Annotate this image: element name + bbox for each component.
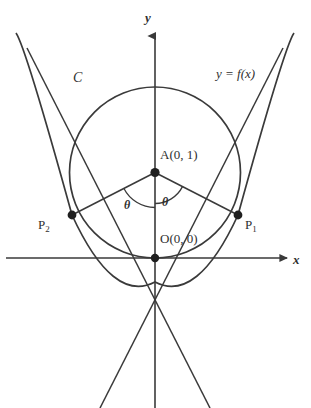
figure-canvas — [0, 0, 311, 408]
segment-a-p2 — [72, 173, 155, 216]
point-p2-label: P2 — [38, 218, 50, 234]
point-a-label: A(0, 1) — [160, 148, 198, 161]
y-axis-label: y — [145, 11, 151, 24]
circle-label-c: C — [73, 71, 82, 85]
angle-arc-right — [155, 186, 183, 203]
point-a-dot — [150, 168, 159, 177]
point-p1-label: P1 — [245, 218, 257, 234]
point-o-label: O(0, 0) — [160, 232, 198, 245]
point-p1-label-sub: 1 — [252, 224, 257, 234]
point-p2-label-sub: 2 — [45, 224, 50, 234]
x-axis-label: x — [293, 253, 300, 266]
point-p2-dot — [68, 211, 77, 220]
function-label: y = f(x) — [216, 67, 255, 80]
point-p1-dot — [234, 211, 243, 220]
angle-label-theta-left: θ — [124, 199, 130, 211]
point-o-dot — [151, 254, 159, 262]
geometry-figure: y x C y = f(x) A(0, 1) O(0, 0) P1 P2 θ θ — [0, 0, 311, 408]
angle-label-theta-right: θ — [162, 196, 168, 208]
tangent-line-p2 — [27, 48, 210, 408]
